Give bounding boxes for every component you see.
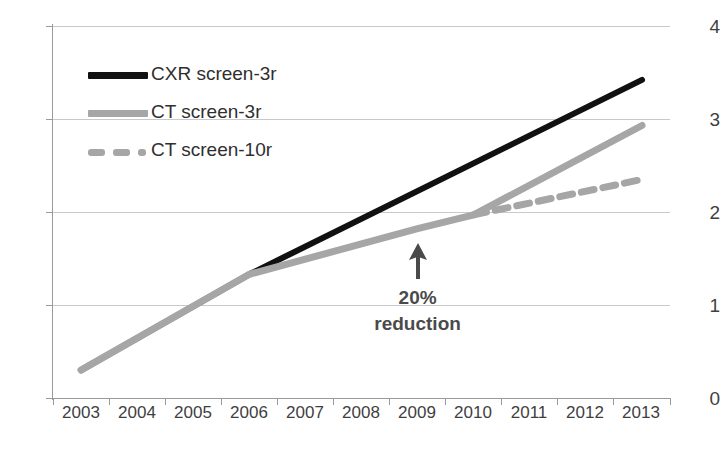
legend-swatch-dashed-gray-icon (88, 148, 148, 156)
annotation-line-1: 20% (348, 285, 488, 311)
legend-label: CT screen-10r (151, 139, 272, 162)
legend-label: CXR screen-3r (151, 63, 277, 86)
series-layer (0, 0, 720, 469)
legend-label: CT screen-3r (151, 101, 262, 124)
annotation-line-2: reduction (348, 311, 488, 337)
annotation-text: 20% reduction (348, 285, 488, 336)
legend-swatch-solid-gray-icon (88, 110, 148, 117)
chart-container: 4 3 2 1 0 2003 2004 2005 2006 2007 2008 … (0, 0, 720, 469)
up-arrow-icon (405, 243, 431, 279)
reduction-annotation: 20% reduction (348, 243, 488, 336)
legend-swatch-solid-black-icon (88, 72, 148, 79)
series-line-ct-screen-10r (474, 179, 642, 214)
